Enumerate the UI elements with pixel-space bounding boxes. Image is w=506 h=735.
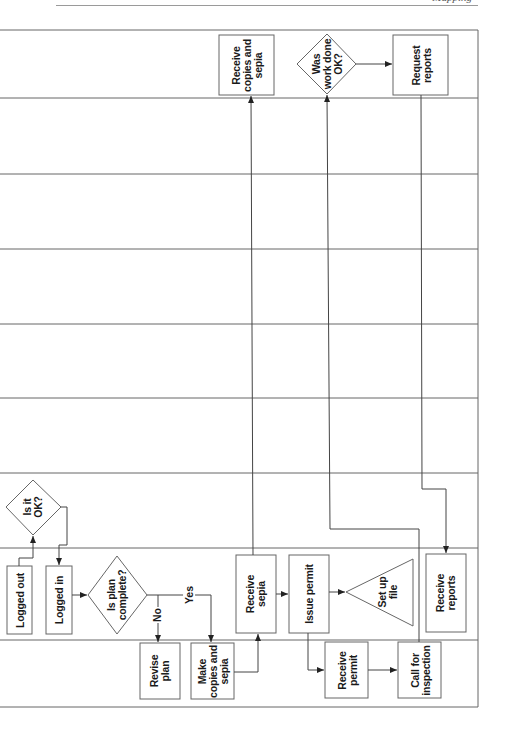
label-was-work-ok: Was work done OK? [307,36,347,92]
label-is-plan-complete: Is plan complete? [103,565,131,625]
label-revise-plan: Revise plan [140,643,180,699]
label-receive-permit: Receive permit [325,642,368,698]
label-call-inspection: Call for inspection [398,642,441,698]
edge-callinspection-workok [327,95,419,642]
edge-issuepermit-receivepermit [308,633,324,670]
label-request-reports: Request reports [393,35,448,95]
label-logged-in: Logged in [46,566,72,634]
swimlane-flowchart: Mapping [0,0,506,735]
label-set-up-file: Set up file [368,570,408,614]
edge-label-no: No [151,607,163,623]
edge-loggedout-isitok [19,536,33,566]
label-make-copies: Make copies and sepia [191,643,234,699]
label-receive-reports: Receive reports [426,554,466,632]
label-receive-sepia: Receive sepia [236,555,276,633]
edge-label-yes: Yes [183,585,195,605]
label-is-it-ok: Is it OK? [20,482,46,532]
edge-receivesepia-receivecopies [251,96,253,555]
label-logged-out: Logged out [7,566,32,634]
edge-isitok-loggedin [59,507,67,565]
label-receive-copies: Receive copies and sepia [219,35,274,95]
label-issue-permit: Issue permit [289,555,329,633]
